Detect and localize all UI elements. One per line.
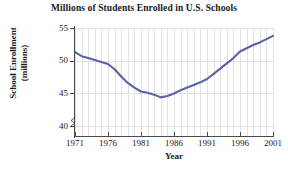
- y-tick-label: 50: [46, 55, 68, 65]
- x-tick-mark: [75, 132, 76, 137]
- y-axis-title-line2: (millions): [19, 45, 29, 82]
- y-tick-mark: [70, 93, 75, 94]
- y-tick-mark: [70, 28, 75, 29]
- y-tick-label: 45: [46, 88, 68, 98]
- plot-area: [75, 28, 273, 136]
- x-tick-label: 2001: [253, 138, 288, 148]
- chart-title: Millions of Students Enrolled in U.S. Sc…: [0, 3, 288, 13]
- y-axis-title-line1: School Enrollment: [8, 27, 18, 99]
- x-tick-mark: [174, 132, 175, 137]
- y-tick-mark: [70, 126, 75, 127]
- x-tick-mark: [108, 132, 109, 137]
- x-tick-mark: [207, 132, 208, 137]
- gridline-vertical: [273, 28, 274, 136]
- data-series-line: [75, 28, 273, 136]
- y-tick-mark: [70, 61, 75, 62]
- chart-figure: Millions of Students Enrolled in U.S. Sc…: [0, 0, 288, 170]
- x-tick-mark: [273, 132, 274, 137]
- y-tick-label: 55: [46, 23, 68, 33]
- x-tick-mark: [240, 132, 241, 137]
- y-axis-title: School Enrollment (millions): [8, 13, 30, 113]
- x-axis-title: Year: [75, 151, 273, 161]
- y-tick-label: 40: [46, 121, 68, 131]
- x-tick-mark: [141, 132, 142, 137]
